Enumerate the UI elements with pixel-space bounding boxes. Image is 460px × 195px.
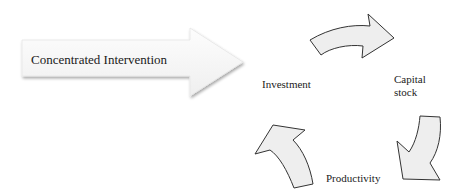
node-productivity-label: Productivity xyxy=(326,172,380,185)
node-capital-stock-line-2: stock xyxy=(394,86,444,99)
intervention-label: Concentrated Intervention xyxy=(31,52,167,68)
node-capital-stock-line-1: Capital xyxy=(394,73,444,86)
cycle-arrow-investment-to-capital xyxy=(310,14,394,58)
diagram-canvas xyxy=(0,0,460,195)
node-investment-label: Investment xyxy=(262,78,311,91)
node-capital-stock-label: Capital stock xyxy=(394,73,444,99)
cycle-arrow-productivity-to-investment xyxy=(255,125,313,188)
cycle-arrow-capital-to-productivity xyxy=(397,116,441,180)
